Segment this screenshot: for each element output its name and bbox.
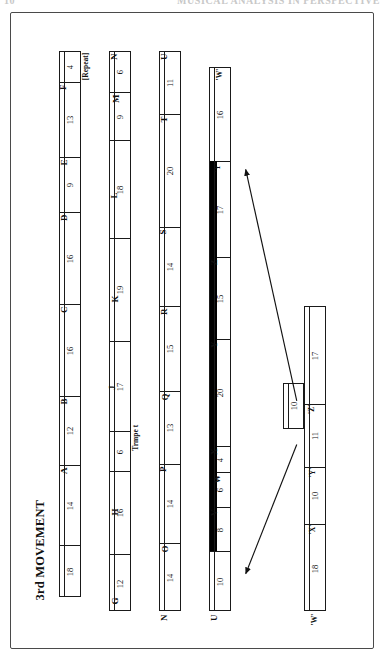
segment-value: 19: [116, 286, 125, 295]
segment-value: 16: [66, 254, 75, 263]
segment-label-y: Y: [210, 342, 219, 349]
segment-value: 16: [216, 110, 225, 119]
page-frame: 3rd MOVEMENT 4 13 9 16 16 12 14: [10, 12, 374, 649]
segment-value: 9: [116, 114, 125, 118]
segment: 16: [210, 68, 230, 161]
bar-row-1: 4 13 9 16 16 12 14 18: [59, 51, 81, 597]
segment-value: 15: [216, 294, 225, 303]
segment-value: 14: [166, 500, 175, 509]
segment-value: 6: [116, 70, 125, 74]
segment-label-q: Q: [161, 394, 170, 401]
segment-label-a: A: [60, 468, 69, 475]
segment-value: 18: [66, 568, 75, 577]
bar-row-3: 11 20 14 15 13 14 14: [159, 51, 181, 611]
segment-label-y-prime-2: 'Y': [309, 468, 317, 478]
segment-value: 16: [66, 346, 75, 355]
scan-page-number: 10: [4, 0, 380, 6]
segment: 4: [60, 52, 80, 82]
bar-row-2: 6 9 18 19 17 6 16 12: [109, 51, 131, 611]
segment: 17: [305, 307, 325, 404]
segment: 18: [60, 545, 80, 598]
segment: 14: [160, 227, 180, 306]
scan-header-bleed: MUSICAL ANALYSIS IN PERSPECTIVE 10: [0, 0, 386, 9]
segment-value: 14: [166, 574, 175, 583]
segment: 16: [60, 304, 80, 396]
segment-value: 20: [216, 389, 225, 398]
segment-value: 10: [311, 492, 320, 501]
segment-label-o: O: [161, 546, 170, 553]
segment: 19: [110, 238, 130, 341]
segment-label-m: M: [112, 95, 121, 104]
segment: 13: [60, 82, 80, 157]
segment-label-r: R: [160, 309, 169, 316]
segment-value: 17: [116, 382, 125, 391]
segment-label-w: W: [213, 475, 222, 484]
segment-value: 17: [216, 205, 225, 214]
segment-label-w-prime: 'W': [311, 614, 319, 626]
segment-label-y-prime: 'Y': [214, 163, 222, 173]
segment-label-x-prime: 'X': [309, 525, 317, 535]
segment-value: 20: [166, 167, 175, 176]
segment-value: 4: [216, 457, 225, 461]
segment: 13: [160, 391, 180, 464]
segment-label-b: B: [60, 399, 69, 405]
segment-label-u2: U: [210, 615, 219, 622]
segment: 11: [160, 52, 180, 114]
segment: 14: [60, 465, 80, 545]
segment: 6: [110, 431, 130, 471]
segment-label-c: C: [60, 307, 69, 314]
segment-value: 11: [311, 432, 320, 440]
segment-label-p: P: [159, 467, 168, 473]
segment-value: 13: [166, 424, 175, 433]
segment-label-l: L: [110, 193, 119, 199]
segment-label-x: X: [210, 449, 219, 456]
segment: 20: [160, 114, 180, 227]
callout-box-10: 10: [283, 383, 304, 429]
bar-row-5: 17 11 10 18: [304, 306, 326, 611]
segment-value: 14: [166, 263, 175, 272]
segment-label-n: N: [110, 54, 119, 61]
segment-value: 11: [166, 79, 175, 87]
segment-label-v: V: [210, 510, 219, 517]
segment-label-f: F: [59, 85, 68, 91]
segment-label-h: H: [111, 509, 120, 516]
segment-value: 17: [311, 351, 320, 360]
segment-label-d: D: [60, 215, 69, 222]
segment-label-trumpet: Trmpe t: [132, 425, 140, 451]
segment-label-j: J: [108, 386, 117, 391]
segment-value: 12: [66, 427, 75, 436]
segment-value: 18: [311, 564, 320, 573]
segment-label-e: E: [60, 160, 69, 166]
segment: 18: [305, 524, 325, 612]
segment-label-t: T: [160, 117, 169, 123]
segment-value: 10: [216, 578, 225, 587]
segment: 18: [110, 140, 130, 238]
segment-label-n2: N: [160, 615, 169, 622]
highlight-black-run: [210, 161, 217, 551]
segment-label-s: S: [159, 230, 168, 235]
bar-row-4: 16 17 15 20 4 6 8: [209, 67, 231, 611]
segment-value: 8: [216, 527, 225, 531]
segment-label-w-prime-top: 'W': [216, 69, 224, 81]
segment-label-g: G: [111, 598, 120, 605]
segment-label-k: K: [111, 296, 120, 303]
segment: 14: [160, 464, 180, 543]
segment-label-z: Z: [210, 260, 219, 266]
segment-value: 4: [66, 65, 75, 69]
segment: 16: [60, 212, 80, 304]
segment-value: 15: [166, 345, 175, 354]
segment-label-u: U: [160, 54, 169, 61]
callout-value: 10: [289, 402, 299, 411]
segment-value: 6: [116, 449, 125, 453]
segment-value: 9: [66, 183, 75, 187]
segment-value: 13: [66, 116, 75, 125]
segment: 12: [60, 396, 80, 465]
segment: 14: [160, 543, 180, 612]
segment-value: 14: [66, 501, 75, 510]
segment: 15: [160, 306, 180, 391]
page-title: 3rd MOVEMENT: [33, 471, 48, 601]
segment-value: 12: [116, 579, 125, 588]
segment-value: 6: [216, 488, 225, 492]
segment-label-z-prime: 'Z': [308, 405, 316, 414]
segment-label-repeat: [Repeat]: [82, 53, 90, 81]
